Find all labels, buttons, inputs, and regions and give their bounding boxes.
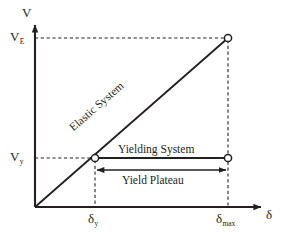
x-tick-label-delta-max: δmax xyxy=(216,212,235,225)
marker-yield-point xyxy=(91,154,98,161)
y-axis-title: V xyxy=(22,6,31,19)
y-tick-ve-base: V xyxy=(10,29,19,44)
yield-plateau-label: Yield Plateau xyxy=(122,175,184,187)
x-tick-label-delta-y: δy xyxy=(88,212,98,225)
force-displacement-diagram: V δ VE Vy δy δmax Elastic System Yieldin… xyxy=(0,0,286,236)
y-tick-label-ve: VE xyxy=(10,30,24,43)
y-tick-label-vy: Vy xyxy=(10,150,23,163)
marker-elastic-max-point xyxy=(224,34,231,41)
x-axis-title: δ xyxy=(266,208,272,221)
y-tick-ve-subscript: E xyxy=(20,37,25,46)
x-tick-delta-y-subscript: y xyxy=(94,219,98,228)
y-tick-vy-subscript: y xyxy=(20,157,24,166)
marker-yielding-max-point xyxy=(224,154,231,161)
yielding-system-label: Yielding System xyxy=(118,144,194,156)
y-tick-vy-base: V xyxy=(10,149,19,164)
diagram-canvas xyxy=(0,0,286,236)
x-tick-delta-max-subscript: max xyxy=(222,219,235,228)
